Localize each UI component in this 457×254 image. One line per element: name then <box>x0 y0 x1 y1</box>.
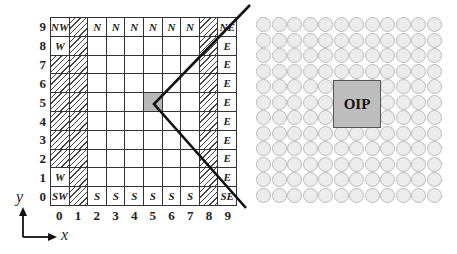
axis-arrows-icon <box>19 207 57 241</box>
wedge-lines <box>154 5 250 208</box>
y-axis-label: y <box>16 188 23 206</box>
x-axis-label: x <box>61 226 68 244</box>
overlay-lines <box>0 0 457 254</box>
